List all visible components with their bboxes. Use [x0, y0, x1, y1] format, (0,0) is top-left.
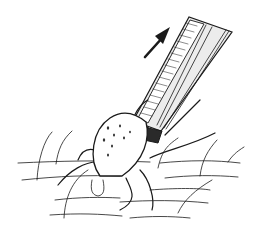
tick-body — [93, 113, 147, 176]
tick-removal-illustration — [0, 0, 262, 238]
tick — [58, 100, 215, 210]
upward-arrow-icon — [145, 27, 170, 57]
tick-mouthpart — [91, 180, 104, 196]
